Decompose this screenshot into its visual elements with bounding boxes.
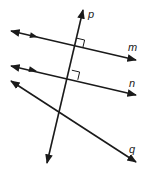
label-m: m bbox=[128, 41, 137, 53]
line-m bbox=[11, 31, 136, 60]
label-n: n bbox=[129, 77, 135, 89]
lines-group bbox=[11, 10, 136, 163]
label-p: p bbox=[87, 8, 94, 20]
line-q bbox=[11, 81, 136, 162]
label-q: q bbox=[129, 143, 136, 155]
line-p bbox=[47, 10, 83, 163]
right-angle-marker-p-n bbox=[72, 70, 80, 80]
labels-group: pmnq bbox=[87, 8, 137, 155]
geometry-diagram: pmnq bbox=[0, 0, 146, 176]
